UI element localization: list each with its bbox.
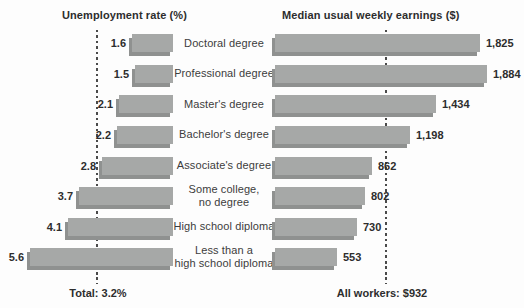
- table-row: 1.5Professional degree1,884: [0, 59, 524, 90]
- all-workers-earnings-label: All workers: $932: [337, 287, 428, 299]
- earnings-bar: [275, 126, 410, 144]
- category-label: Bachelor's degree: [173, 128, 275, 141]
- category-label: Some college,no degree: [173, 183, 275, 209]
- earnings-cell: 1,198: [275, 126, 524, 144]
- earnings-value: 1,198: [416, 129, 444, 141]
- category-label-line: High school diploma: [173, 220, 275, 233]
- category-label-line: Professional degree: [173, 67, 275, 80]
- unemployment-cell: 1.5: [0, 65, 173, 83]
- category-label-line: high school diploma: [173, 257, 275, 270]
- earnings-cell: 1,434: [275, 95, 524, 113]
- earnings-value: 1,884: [493, 68, 521, 80]
- category-label-line: Master's degree: [173, 98, 275, 111]
- earnings-value: 730: [363, 221, 381, 233]
- earnings-bar: [275, 95, 436, 113]
- earnings-bar: [275, 34, 480, 52]
- unemployment-value: 2.1: [98, 98, 113, 110]
- chart-rows: 1.6Doctoral degree1,8251.5Professional d…: [0, 28, 524, 273]
- earnings-bar: [275, 218, 357, 236]
- table-row: 1.6Doctoral degree1,825: [0, 28, 524, 59]
- table-row: 2.8Associate's degree862: [0, 150, 524, 181]
- category-label: Less than ahigh school diploma: [173, 244, 275, 270]
- unemployment-bar: [117, 126, 173, 144]
- earnings-cell: 1,825: [275, 34, 524, 52]
- category-label-line: Less than a: [173, 244, 275, 257]
- unemployment-bar: [30, 248, 173, 266]
- category-label: High school diploma: [173, 220, 275, 233]
- category-label: Associate's degree: [173, 159, 275, 172]
- unemployment-value: 5.6: [9, 251, 24, 263]
- unemployment-value: 4.1: [47, 221, 62, 233]
- education-pays-chart: Unemployment rate (%) Median usual weekl…: [0, 0, 524, 308]
- category-label-line: Bachelor's degree: [173, 128, 275, 141]
- category-label-line: no degree: [173, 196, 275, 209]
- earnings-value: 1,434: [442, 98, 470, 110]
- unemployment-bar: [102, 157, 173, 175]
- unemployment-value: 3.7: [58, 190, 73, 202]
- earnings-bar: [275, 157, 372, 175]
- unemployment-cell: 5.6: [0, 248, 173, 266]
- unemployment-bar: [132, 34, 173, 52]
- unemployment-bar: [68, 218, 173, 236]
- unemployment-cell: 1.6: [0, 34, 173, 52]
- category-label: Professional degree: [173, 67, 275, 80]
- unemployment-axis-title: Unemployment rate (%): [62, 9, 187, 21]
- table-row: 5.6Less than ahigh school diploma553: [0, 242, 524, 273]
- table-row: 2.1Master's degree1,434: [0, 89, 524, 120]
- unemployment-value: 2.8: [81, 160, 96, 172]
- table-row: 4.1High school diploma730: [0, 212, 524, 243]
- unemployment-bar: [135, 65, 173, 83]
- earnings-bar: [275, 65, 487, 83]
- category-label: Master's degree: [173, 98, 275, 111]
- earnings-value: 802: [371, 190, 389, 202]
- category-label-line: Associate's degree: [173, 159, 275, 172]
- unemployment-cell: 3.7: [0, 187, 173, 205]
- unemployment-value: 2.2: [96, 129, 111, 141]
- earnings-cell: 553: [275, 248, 524, 266]
- earnings-cell: 862: [275, 157, 524, 175]
- earnings-bar: [275, 248, 337, 266]
- table-row: 2.2Bachelor's degree1,198: [0, 120, 524, 151]
- category-label-line: Some college,: [173, 183, 275, 196]
- unemployment-cell: 2.2: [0, 126, 173, 144]
- total-unemployment-label: Total: 3.2%: [69, 287, 126, 299]
- category-label: Doctoral degree: [173, 37, 275, 50]
- unemployment-value: 1.5: [114, 68, 129, 80]
- earnings-value: 553: [343, 251, 361, 263]
- unemployment-value: 1.6: [111, 37, 126, 49]
- category-label-line: Doctoral degree: [173, 37, 275, 50]
- earnings-cell: 1,884: [275, 65, 524, 83]
- earnings-bar: [275, 187, 365, 205]
- earnings-cell: 802: [275, 187, 524, 205]
- earnings-value: 1,825: [486, 37, 514, 49]
- earnings-value: 862: [378, 160, 396, 172]
- earnings-axis-title: Median usual weekly earnings ($): [282, 9, 459, 21]
- unemployment-cell: 4.1: [0, 218, 173, 236]
- table-row: 3.7Some college,no degree802: [0, 181, 524, 212]
- unemployment-cell: 2.1: [0, 95, 173, 113]
- unemployment-bar: [119, 95, 173, 113]
- unemployment-bar: [79, 187, 173, 205]
- earnings-cell: 730: [275, 218, 524, 236]
- unemployment-cell: 2.8: [0, 157, 173, 175]
